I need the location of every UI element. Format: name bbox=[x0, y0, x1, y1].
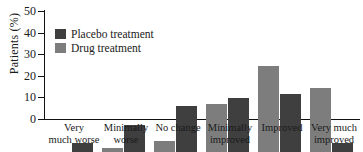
y-tick-0 bbox=[38, 119, 44, 120]
bar-pair bbox=[258, 44, 301, 152]
legend-item: Drug treatment bbox=[55, 41, 154, 55]
legend-label: Drug treatment bbox=[71, 41, 141, 55]
bar-chart: Patients (%) 50403020100 Verymuch worseM… bbox=[0, 0, 363, 152]
x-axis-label-line: worse bbox=[91, 134, 161, 146]
y-tick-label-10: 10 bbox=[14, 92, 36, 102]
x-axis-label: Very muchimproved bbox=[299, 122, 363, 145]
y-tick-20 bbox=[38, 76, 44, 77]
legend-label: Placebo treatment bbox=[71, 27, 154, 41]
y-tick-label-30: 30 bbox=[14, 49, 36, 59]
y-tick-label-20: 20 bbox=[14, 71, 36, 81]
legend-swatch-drug bbox=[55, 43, 66, 53]
bar-drug bbox=[258, 66, 279, 152]
y-tick-40 bbox=[38, 33, 44, 34]
x-axis-label-line: improved bbox=[299, 134, 363, 146]
bar-drug bbox=[102, 148, 123, 152]
bar-pair bbox=[154, 44, 197, 152]
y-axis-line bbox=[44, 10, 45, 120]
legend-item: Placebo treatment bbox=[55, 27, 154, 41]
y-tick-label-50: 50 bbox=[14, 6, 36, 16]
y-tick-label-40: 40 bbox=[14, 28, 36, 38]
y-tick-30 bbox=[38, 54, 44, 55]
bar-drug bbox=[154, 141, 175, 152]
x-axis-label-line: Very much bbox=[299, 122, 363, 134]
y-tick-50 bbox=[38, 11, 44, 12]
legend-swatch-placebo bbox=[55, 29, 66, 39]
x-axis-label-line: improved bbox=[195, 134, 265, 146]
y-tick-10 bbox=[38, 97, 44, 98]
chart-legend: Placebo treatmentDrug treatment bbox=[55, 27, 154, 55]
y-tick-label-0: 0 bbox=[14, 114, 36, 124]
